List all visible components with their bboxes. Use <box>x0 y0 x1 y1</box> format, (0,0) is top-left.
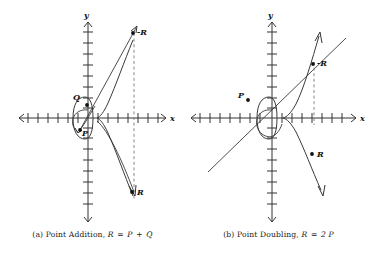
point-marker-negR <box>311 62 315 66</box>
caption-eq-lhs: R <box>108 230 114 239</box>
point-label-R: R <box>136 187 144 197</box>
caption-title: Point Doubling, <box>237 230 299 239</box>
caption-index: (a) <box>32 230 43 239</box>
arc-near-origin-upper <box>257 110 272 134</box>
y-axis-label: y <box>83 10 90 20</box>
plot-point-doubling: P -R R x y <box>186 0 371 232</box>
panel-point-addition: -R Q P R x y (a) Point Addition, R = P +… <box>0 0 185 263</box>
point-marker-P <box>246 98 250 102</box>
caption-eq-op: + <box>135 230 144 239</box>
branch-arrow-to-R <box>97 121 134 192</box>
caption-eq-rel: = <box>116 230 125 239</box>
panel-point-doubling: P -R R x y (b) Point Doubling, R = 2 P <box>186 0 371 263</box>
point-marker-R <box>130 190 134 194</box>
point-label-negR: -R <box>317 58 327 68</box>
point-marker-Q <box>85 103 89 107</box>
point-label-negR: -R <box>137 27 147 37</box>
caption-eq-rel: = <box>310 230 319 239</box>
point-label-P: P <box>237 90 245 100</box>
caption-eq-lhs: R <box>301 230 307 239</box>
caption-point-doubling: (b) Point Doubling, R = 2 P <box>186 230 371 239</box>
point-marker-negR <box>131 31 135 35</box>
point-label-P: P <box>81 128 89 138</box>
x-axis <box>191 113 356 123</box>
elliptic-curve-figure: -R Q P R x y (a) Point Addition, R = P +… <box>0 0 371 263</box>
plot-point-addition: -R Q P R x y <box>0 0 185 232</box>
point-label-Q: Q <box>73 92 80 102</box>
x-axis-label: x <box>359 113 365 123</box>
caption-title: Point Addition, <box>46 230 105 239</box>
caption-eq-rhs-2: Q <box>146 230 152 239</box>
point-label-R: R <box>316 149 324 159</box>
caption-eq-rhs-1: P <box>127 230 132 239</box>
caption-eq-rhs-2: P <box>329 230 334 239</box>
caption-eq-rhs-1: 2 <box>321 230 326 239</box>
caption-index: (b) <box>223 230 234 239</box>
caption-point-addition: (a) Point Addition, R = P + Q <box>0 230 185 239</box>
point-marker-R <box>310 152 314 156</box>
x-axis-label: x <box>169 113 175 123</box>
y-axis <box>267 22 277 222</box>
y-axis-label: y <box>267 10 274 20</box>
